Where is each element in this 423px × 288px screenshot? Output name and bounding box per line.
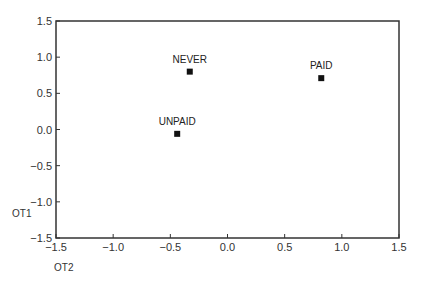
point-label: UNPAID — [159, 116, 196, 127]
x-tick-label: 1.5 — [391, 241, 406, 253]
y-tick-label: −0.5 — [30, 160, 52, 172]
y-tick-label: 0.5 — [37, 87, 52, 99]
y-tick-label: 1.5 — [37, 15, 52, 27]
y-axis-title: OT1 — [12, 208, 32, 219]
plot-frame — [56, 21, 399, 238]
point-label: NEVER — [173, 54, 207, 65]
x-tick-label: 0.0 — [220, 241, 235, 253]
x-tick-label: −0.5 — [159, 241, 181, 253]
x-tick-label: 1.0 — [334, 241, 349, 253]
y-tick-label: 1.0 — [37, 51, 52, 63]
data-point-never: NEVER — [173, 54, 207, 75]
square-marker-icon — [174, 131, 180, 137]
x-axis: −1.5−1.0−0.50.00.51.01.5 — [45, 234, 407, 253]
y-tick-label: −1.0 — [30, 196, 52, 208]
y-tick-label: 0.0 — [37, 124, 52, 136]
point-label: PAID — [310, 60, 333, 71]
x-tick-label: 0.5 — [277, 241, 292, 253]
data-point-paid: PAID — [310, 60, 333, 81]
x-tick-label: −1.0 — [102, 241, 124, 253]
square-marker-icon — [187, 69, 193, 75]
scatter-chart: −1.5−1.0−0.50.00.51.01.5 −1.5−1.0−0.50.0… — [0, 0, 423, 288]
data-points: NEVERPAIDUNPAID — [159, 54, 333, 137]
square-marker-icon — [318, 75, 324, 81]
x-axis-title: OT2 — [54, 262, 74, 273]
data-point-unpaid: UNPAID — [159, 116, 196, 137]
y-tick-label: −1.5 — [30, 232, 52, 244]
